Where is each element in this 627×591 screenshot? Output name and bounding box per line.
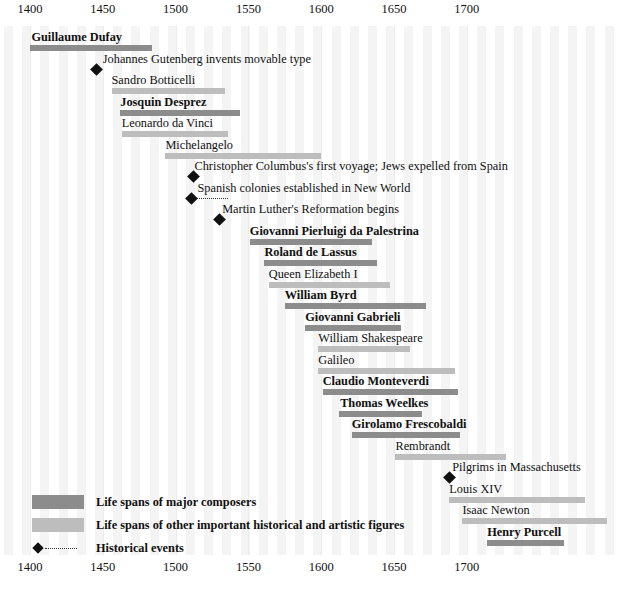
lifespan-label: William Byrd [285, 288, 357, 302]
axis-tick-label-1700: 1700 [454, 2, 479, 16]
lifespan-label: Michelangelo [165, 138, 233, 152]
composer-lifespan-bar [323, 389, 458, 395]
figure-lifespan-bar [112, 88, 226, 94]
event-dotted-line [45, 548, 77, 549]
axis-tick-label-1550: 1550 [236, 560, 261, 574]
legend-item: Life spans of other important historical… [32, 515, 404, 535]
figure-lifespan-bar [318, 346, 410, 352]
legend-item: Historical events [32, 538, 184, 558]
lifespan-label: Isaac Newton [462, 503, 529, 517]
chart-legend: Life spans of major composersLife spans … [0, 492, 400, 554]
lifespan-label: Sandro Botticelli [112, 73, 196, 87]
x-axis-bottom: 1400145015001550160016501700 [0, 560, 627, 582]
figure-lifespan-bar [165, 153, 321, 159]
event-label: Pilgrims in Massachusetts [452, 460, 580, 474]
event-label: Spanish colonies established in New Worl… [197, 181, 410, 195]
lifespan-label: Leonardo da Vinci [122, 116, 213, 130]
lifespan-label: Girolamo Frescobaldi [352, 417, 467, 431]
axis-tick-label-1500: 1500 [163, 2, 188, 16]
axis-tick-label-1400: 1400 [18, 2, 43, 16]
composer-lifespan-bar [250, 239, 372, 245]
legend-event-marker [32, 541, 84, 555]
lifespan-label: Roland de Lassus [264, 245, 356, 259]
figure-lifespan-bar [122, 131, 228, 137]
lifespan-label: Josquin Desprez [120, 95, 206, 109]
figure-lifespan-bar [462, 518, 606, 524]
legend-item: Life spans of major composers [32, 492, 256, 512]
axis-tick-label-1700: 1700 [454, 560, 479, 574]
composer-lifespan-bar [352, 432, 460, 438]
composer-lifespan-bar [264, 260, 376, 266]
event-label: Christopher Columbus's first voyage; Jew… [195, 159, 508, 173]
composer-lifespan-bar [30, 45, 152, 51]
legend-swatch-figure [32, 518, 84, 532]
event-diamond-icon [32, 542, 43, 553]
figure-lifespan-bar [449, 497, 584, 503]
axis-tick-label-1550: 1550 [236, 2, 261, 16]
composer-lifespan-bar [120, 110, 239, 116]
lifespan-label: Thomas Weelkes [340, 396, 428, 410]
lifespan-label: Rembrandt [395, 439, 450, 453]
axis-tick-label-1450: 1450 [90, 560, 115, 574]
axis-tick-label-1600: 1600 [309, 2, 334, 16]
lifespan-label: Queen Elizabeth I [269, 267, 358, 281]
lifespan-label: Henry Purcell [487, 525, 561, 539]
axis-tick-label-1500: 1500 [163, 560, 188, 574]
legend-label: Life spans of major composers [96, 495, 256, 509]
lifespan-label: Giovanni Gabrieli [305, 310, 400, 324]
lifespan-label: Giovanni Pierluigi da Palestrina [250, 224, 419, 238]
axis-tick-label-1400: 1400 [18, 560, 43, 574]
lifespan-label: Louis XIV [449, 482, 502, 496]
legend-label: Historical events [96, 541, 184, 555]
lifespan-label: Guillaume Dufay [31, 30, 122, 44]
legend-swatch-composer [32, 495, 84, 509]
composer-lifespan-bar [339, 411, 422, 417]
axis-tick-label-1600: 1600 [309, 560, 334, 574]
lifespan-label: Galileo [318, 353, 354, 367]
figure-lifespan-bar [269, 282, 390, 288]
axis-tick-label-1650: 1650 [382, 560, 407, 574]
lifespan-label: William Shakespeare [318, 331, 422, 345]
event-label: Martin Luther's Reformation begins [222, 202, 399, 216]
composer-lifespan-bar [305, 325, 401, 331]
figure-lifespan-bar [318, 368, 455, 374]
x-axis-top: 1400145015001550160016501700 [0, 2, 627, 24]
legend-label: Life spans of other important historical… [96, 518, 404, 532]
axis-tick-label-1450: 1450 [90, 2, 115, 16]
composer-lifespan-bar [285, 303, 426, 309]
lifespan-label: Claudio Monteverdi [323, 374, 429, 388]
axis-tick-label-1650: 1650 [382, 2, 407, 16]
event-label: Johannes Gutenberg invents movable type [103, 52, 311, 66]
event-dotted-line [197, 198, 228, 199]
figure-lifespan-bar [395, 454, 506, 460]
timeline-chart: 1400145015001550160016501700 Guillaume D… [0, 0, 627, 591]
composer-lifespan-bar [487, 540, 564, 546]
